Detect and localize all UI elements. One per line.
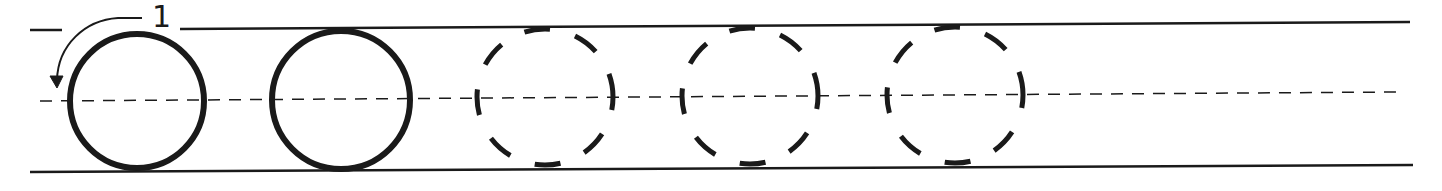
top-guide-line	[30, 22, 1410, 30]
stroke-direction-arrow-icon	[50, 18, 142, 88]
midline-dashed	[40, 92, 1396, 101]
stroke-order-number: 1	[152, 2, 171, 32]
bottom-guide-line	[30, 165, 1413, 172]
handwriting-worksheet	[0, 0, 1442, 191]
